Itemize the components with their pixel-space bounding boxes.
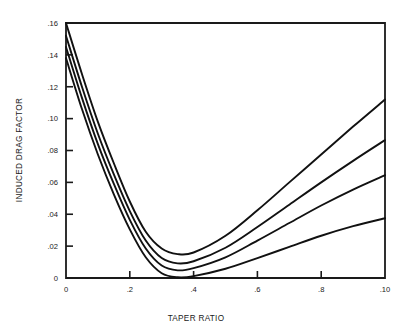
y-tick-label: 0 [54,274,58,283]
y-tick-label: .12 [47,83,58,92]
y-tick-label: .06 [47,178,58,187]
x-axis-label: TAPER RATIO [168,314,225,323]
y-tick-label: .10 [47,114,58,123]
y-tick-label: .04 [47,210,58,219]
x-tick-label: 0 [64,285,68,294]
x-tick-label: .8 [318,285,324,294]
chart-background [0,0,401,332]
y-tick-label: .02 [47,242,58,251]
y-axis-label: INDUCED DRAG FACTOR [15,98,24,202]
y-tick-label: .16 [47,19,58,28]
x-tick-label: .2 [127,285,133,294]
x-tick-label: .10 [380,285,391,294]
x-tick-label: .6 [254,285,260,294]
chart-figure: 0.02.04.06.08.10.12.14.16 0.2.4.6.8.10 I… [0,0,401,332]
y-tick-label: .14 [47,51,58,60]
y-tick-label: .08 [47,146,58,155]
induced-drag-factor-chart: 0.02.04.06.08.10.12.14.16 0.2.4.6.8.10 I… [0,0,401,332]
x-tick-label: .4 [190,285,196,294]
y-axis-tick-labels: 0.02.04.06.08.10.12.14.16 [47,19,58,283]
